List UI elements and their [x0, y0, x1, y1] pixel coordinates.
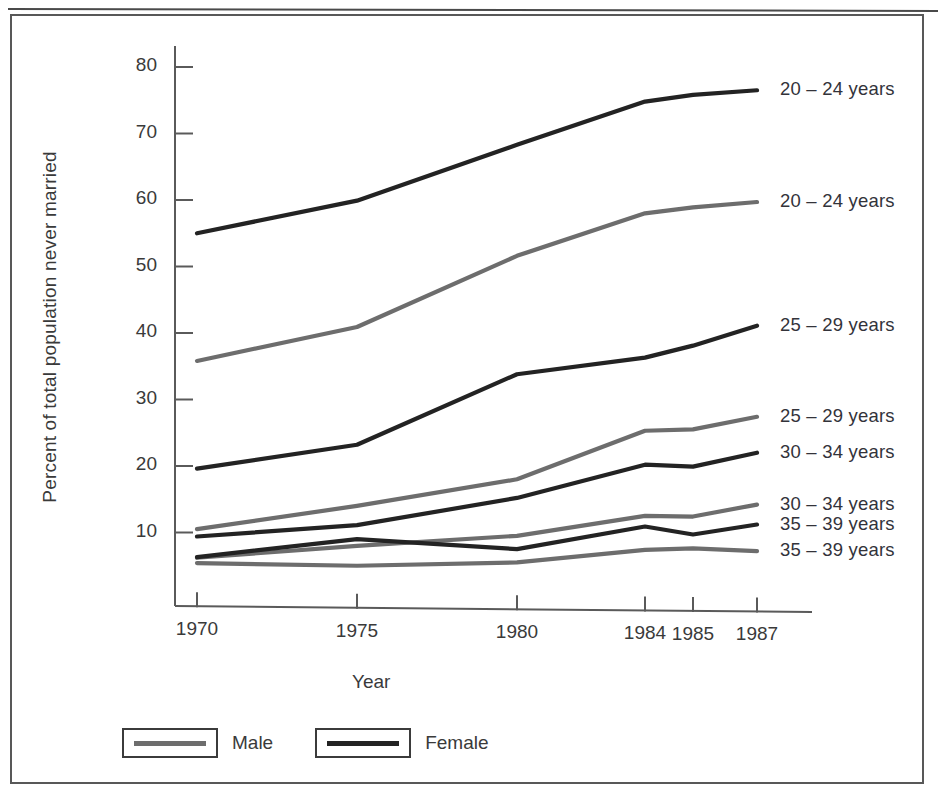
legend-swatch-male: [122, 728, 218, 758]
legend-item-female[interactable]: Female: [315, 728, 488, 758]
series-end-label: 25 – 29 years: [780, 405, 895, 427]
legend: Male Female: [122, 728, 489, 758]
y-tick-label: 80: [113, 54, 157, 76]
legend-label-male: Male: [232, 732, 273, 754]
legend-item-male[interactable]: Male: [122, 728, 273, 758]
x-tick-label: 1980: [477, 621, 557, 643]
legend-swatch-female: [315, 728, 411, 758]
x-axis-label: Year: [352, 671, 390, 693]
series-end-label: 20 – 24 years: [780, 190, 895, 212]
chart-frame: Percent of total population never marrie…: [10, 14, 924, 784]
y-tick-label: 60: [113, 187, 157, 209]
series-line: [197, 417, 757, 529]
top-rule: [8, 8, 938, 12]
y-tick-label: 50: [113, 254, 157, 276]
figure: Percent of total population never marrie…: [0, 0, 938, 797]
y-tick-label: 20: [113, 453, 157, 475]
legend-line-female-icon: [327, 741, 399, 746]
series-line: [197, 202, 757, 361]
series-end-label: 20 – 24 years: [780, 78, 895, 100]
legend-label-female: Female: [425, 732, 488, 754]
series-end-label: 25 – 29 years: [780, 314, 895, 336]
series-end-label: 35 – 39 years: [780, 539, 895, 561]
legend-line-male-icon: [134, 741, 206, 746]
y-axis-label: Percent of total population never marrie…: [39, 117, 61, 537]
x-tick-label: 1970: [157, 618, 237, 640]
y-tick-label: 10: [113, 520, 157, 542]
series-end-label: 30 – 34 years: [780, 441, 895, 463]
x-tick-label: 1975: [317, 620, 397, 642]
y-tick-label: 30: [113, 387, 157, 409]
series-end-label: 30 – 34 years: [780, 493, 895, 515]
x-tick-label: 1987: [717, 623, 797, 645]
y-tick-label: 40: [113, 320, 157, 342]
series-end-label: 35 – 39 years: [780, 513, 895, 535]
series-line: [197, 326, 757, 469]
cut-off-caption: [0, 0, 938, 6]
y-tick-label: 70: [113, 121, 157, 143]
series-line: [197, 453, 757, 537]
